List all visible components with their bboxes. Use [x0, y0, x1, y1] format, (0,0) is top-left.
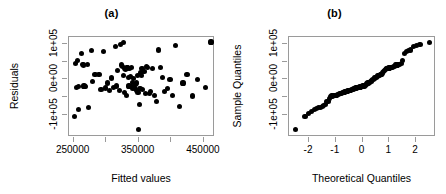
data-point: [101, 49, 106, 54]
y-tick: [282, 96, 287, 97]
data-point: [152, 93, 157, 98]
x-tick: [362, 137, 363, 142]
data-point: [173, 43, 178, 48]
panel-b-points: [289, 37, 434, 135]
data-point: [293, 127, 298, 132]
data-point: [79, 51, 84, 56]
data-point: [121, 40, 126, 45]
data-point: [136, 127, 141, 132]
panel-a-points: [69, 37, 213, 135]
data-point: [96, 72, 101, 77]
y-tick: [62, 61, 67, 62]
data-point: [85, 62, 90, 67]
data-point: [117, 88, 122, 93]
data-point: [83, 84, 88, 89]
panel-b-ylabel: Sample Quantiles: [231, 45, 243, 128]
panel-a-title: (a): [0, 7, 223, 19]
panel-a: (a) 250000350000450000-1e+050e+001e+05 F…: [0, 0, 223, 194]
y-tick: [282, 61, 287, 62]
data-point: [109, 75, 114, 80]
y-tick: [282, 114, 287, 115]
y-tick: [62, 78, 67, 79]
x-tick: [388, 137, 389, 142]
data-point: [208, 39, 213, 44]
data-point: [89, 48, 94, 53]
data-point: [154, 99, 159, 104]
data-point: [167, 77, 172, 82]
x-tick: [415, 137, 416, 142]
y-tick-label: 0e+00: [59, 50, 70, 78]
panel-b-xlabel: Theoretical Quantiles: [312, 172, 411, 184]
data-point: [124, 93, 129, 98]
data-point: [90, 79, 95, 84]
panel-a-plot-area: [68, 36, 214, 136]
x-tick: [203, 137, 204, 142]
data-point: [177, 104, 182, 109]
x-tick: [335, 137, 336, 142]
y-tick-label: -1e+05: [59, 83, 70, 114]
data-point: [203, 85, 208, 90]
x-tick: [73, 137, 74, 142]
data-point: [417, 42, 422, 47]
data-point: [427, 40, 432, 45]
data-point: [72, 114, 77, 119]
data-point: [190, 93, 195, 98]
data-point: [156, 47, 161, 52]
x-tick: [105, 137, 106, 142]
data-point: [129, 65, 134, 70]
x-tick-label: 450000: [186, 144, 219, 155]
data-point: [134, 80, 139, 85]
x-tick-label: 0: [359, 144, 365, 155]
data-point: [184, 72, 189, 77]
x-tick: [170, 137, 171, 142]
y-tick: [62, 114, 67, 115]
data-point: [160, 75, 165, 80]
data-point: [137, 102, 142, 107]
y-tick: [62, 96, 67, 97]
x-tick-label: -1: [330, 144, 339, 155]
figure-root: (a) 250000350000450000-1e+050e+001e+05 F…: [0, 0, 446, 194]
x-tick: [138, 137, 139, 142]
panel-b-title: (b): [223, 7, 446, 19]
data-point: [195, 77, 200, 82]
y-tick-label: 0e+00: [279, 50, 290, 78]
x-tick-label: -2: [304, 144, 313, 155]
panel-b-plot-area: [288, 36, 435, 136]
x-tick-label: 350000: [121, 144, 154, 155]
data-point: [105, 80, 110, 85]
y-tick-label: 1e+05: [279, 14, 290, 42]
y-tick-label: 1e+05: [59, 14, 70, 42]
x-tick-label: 250000: [56, 144, 89, 155]
data-point: [400, 58, 405, 63]
data-point: [86, 105, 91, 110]
y-tick: [282, 78, 287, 79]
data-point: [121, 73, 126, 78]
data-point: [115, 68, 120, 73]
data-point: [170, 93, 175, 98]
y-tick-label: -1e+05: [279, 83, 290, 114]
data-point: [158, 65, 163, 70]
data-point: [76, 107, 81, 112]
panel-b: (b) -2-1012-1e+050e+001e+05 Theoretical …: [223, 0, 446, 194]
data-point: [165, 86, 170, 91]
x-tick-label: 1: [385, 144, 391, 155]
panel-a-ylabel: Residuals: [8, 63, 20, 109]
x-tick-label: 2: [412, 144, 418, 155]
data-point: [76, 84, 81, 89]
x-tick: [308, 137, 309, 142]
panel-a-xlabel: Fitted values: [111, 172, 171, 184]
data-point: [180, 80, 185, 85]
data-point: [150, 66, 155, 71]
